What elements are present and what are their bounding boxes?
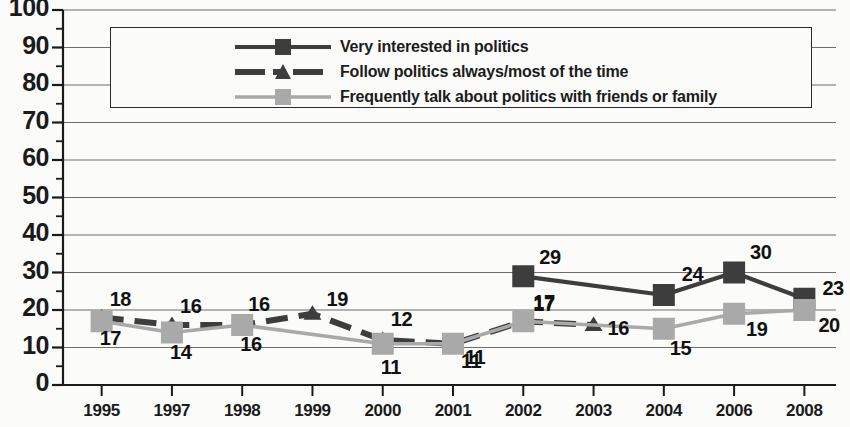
y-tick-label-0: 0 <box>36 368 49 397</box>
value-label-1-1999: 19 <box>326 288 347 311</box>
value-label-1-2000: 12 <box>391 308 412 331</box>
y-tick-label-40: 40 <box>22 218 49 247</box>
legend-item-1[interactable]: Follow politics always/most of the time <box>231 61 628 83</box>
x-tick-label-2001: 2001 <box>418 401 488 421</box>
value-label-2-2002: 17 <box>533 293 554 316</box>
value-label-1-1995: 18 <box>110 288 131 311</box>
value-label-2-1997: 14 <box>170 341 191 364</box>
value-label-2-2000: 11 <box>381 356 401 379</box>
legend-swatch-solid-gray-square-icon <box>231 87 335 107</box>
legend-swatch-solid-dark-square-icon <box>231 37 335 57</box>
value-label-2-1998: 16 <box>240 333 261 356</box>
x-tick-label-2006: 2006 <box>699 401 769 421</box>
y-tick-label-30: 30 <box>22 256 49 285</box>
x-tick-label-2000: 2000 <box>348 401 418 421</box>
legend-item-2[interactable]: Frequently talk about politics with frie… <box>231 86 717 108</box>
x-tick-label-2008: 2008 <box>769 401 839 421</box>
value-label-0-2002: 29 <box>539 246 560 269</box>
value-label-1-1998: 16 <box>248 293 269 316</box>
chart-legend: Very interested in politicsFollow politi… <box>110 27 812 108</box>
y-tick-label-70: 70 <box>22 106 49 135</box>
value-label-2-2004: 15 <box>670 337 691 360</box>
y-tick-label-20: 20 <box>22 293 49 322</box>
value-label-2-2008: 20 <box>818 314 839 337</box>
y-tick-label-90: 90 <box>22 31 49 60</box>
x-tick-label-2004: 2004 <box>629 401 699 421</box>
marker-0-2004 <box>653 284 675 306</box>
y-tick-label-60: 60 <box>22 143 49 172</box>
marker-0-2006 <box>723 262 745 284</box>
marker-2-2008 <box>793 299 815 321</box>
politics-interest-line-chart: 1009080706050403020100 19951997199819992… <box>0 0 850 427</box>
marker-2-2006 <box>723 303 745 325</box>
marker-2-2002 <box>512 310 534 332</box>
y-tick-label-50: 50 <box>22 181 49 210</box>
value-label-0-2008: 23 <box>822 277 843 300</box>
x-tick-label-1997: 1997 <box>137 401 207 421</box>
y-tick-label-10: 10 <box>22 331 49 360</box>
value-label-2-2001: 11 <box>465 346 485 369</box>
legend-label-0: Very interested in politics <box>340 38 528 56</box>
marker-0-2002 <box>512 265 534 287</box>
y-tick-label-100: 100 <box>9 0 49 22</box>
value-label-1-1997: 16 <box>180 295 201 318</box>
legend-swatch-dashed-dark-triangle-icon <box>231 62 335 82</box>
value-label-2-1995: 17 <box>100 327 121 350</box>
x-tick-label-1998: 1998 <box>207 401 277 421</box>
value-label-2-2006: 19 <box>746 318 767 341</box>
value-label-0-2006: 30 <box>750 241 771 264</box>
y-tick-label-80: 80 <box>22 68 49 97</box>
x-tick-label-1999: 1999 <box>277 401 347 421</box>
x-tick-label-1995: 1995 <box>67 401 137 421</box>
legend-label-1: Follow politics always/most of the time <box>340 63 628 81</box>
x-tick-label-2003: 2003 <box>559 401 629 421</box>
legend-item-0[interactable]: Very interested in politics <box>231 36 528 58</box>
marker-2-2000 <box>372 333 394 355</box>
legend-label-2: Frequently talk about politics with frie… <box>340 88 717 106</box>
value-label-1-2003: 16 <box>608 317 629 340</box>
x-tick-label-2002: 2002 <box>488 401 558 421</box>
value-label-0-2004: 24 <box>682 263 703 286</box>
